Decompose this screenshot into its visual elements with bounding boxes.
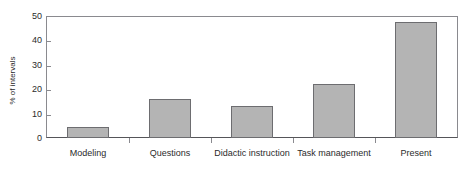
bar xyxy=(231,106,274,138)
bar-series xyxy=(47,16,457,138)
y-axis-tick-label: 0 xyxy=(20,134,42,143)
bar xyxy=(313,84,356,138)
bar xyxy=(67,127,110,138)
x-axis-category-dividers xyxy=(47,138,457,143)
x-axis-divider xyxy=(211,138,212,143)
x-axis-tick-label: Modeling xyxy=(47,147,129,163)
x-axis-divider xyxy=(375,138,376,143)
y-axis-title-text: % of intervals xyxy=(8,56,17,104)
y-axis-tick-label: 30 xyxy=(20,60,42,69)
y-axis-tick-label: 20 xyxy=(20,85,42,94)
x-axis-tick-label: Task management xyxy=(293,147,375,163)
bar-slot xyxy=(293,16,375,138)
clipped-caption-artifact xyxy=(0,0,472,7)
y-axis-tick-label: 50 xyxy=(20,12,42,21)
bar xyxy=(149,99,192,138)
x-axis-tick-label: Didactic instruction xyxy=(211,147,293,163)
bar-slot xyxy=(375,16,457,138)
x-axis-divider xyxy=(293,138,294,143)
y-axis-tick-label: 40 xyxy=(20,36,42,45)
bar xyxy=(395,22,438,138)
bar-slot xyxy=(211,16,293,138)
y-axis-tick-label: 10 xyxy=(20,109,42,118)
x-axis-tick-labels: ModelingQuestionsDidactic instructionTas… xyxy=(47,147,457,163)
bar-slot xyxy=(129,16,211,138)
x-axis-tick-label: Questions xyxy=(129,147,211,163)
x-axis-divider xyxy=(129,138,130,143)
bar-slot xyxy=(47,16,129,138)
y-axis-title: % of intervals xyxy=(4,40,20,120)
x-axis-tick-label: Present xyxy=(375,147,457,163)
bar-chart: % of intervals 01020304050 ModelingQuest… xyxy=(0,0,472,171)
y-axis-tick-labels: 01020304050 xyxy=(20,10,42,142)
